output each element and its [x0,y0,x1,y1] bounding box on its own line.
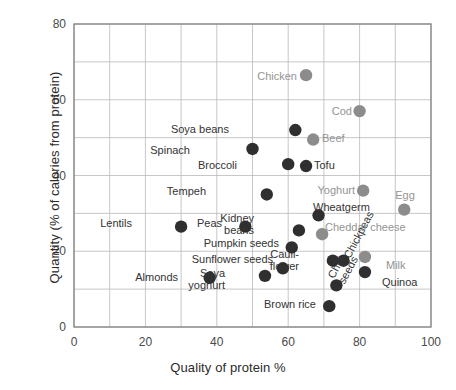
data-point [359,251,371,263]
data-point-label: Beef [322,133,345,145]
x-tick-label: 80 [340,335,380,349]
data-point-label: Cod [192,106,352,118]
data-point [353,105,365,117]
data-point-label: Tempeh [46,186,206,198]
data-point [293,224,305,236]
data-point-label: Brown rice [156,299,316,311]
x-axis-title: Quality of protein % [0,360,456,375]
x-tick-label: 40 [197,335,237,349]
data-point [282,158,294,170]
y-axis-title: Quantity (% of calories from protein) [47,18,62,338]
data-point-label: Soyayoghurt [65,268,225,291]
data-point-label: Milk [386,260,406,272]
data-point-label: Egg [365,190,445,202]
data-point-label: Wheatgerm [313,202,370,214]
x-tick-label: 20 [125,335,165,349]
data-point [359,266,371,278]
data-point-label: Tofu [314,160,335,172]
scatter-chart: 020406080100020406080 Soya beansSpinachB… [0,0,456,390]
data-point-label: Chicken [137,71,297,83]
data-point [300,69,312,81]
data-point [300,160,312,172]
data-point-label: Soya beans [69,124,229,136]
x-tick-label: 60 [268,335,308,349]
data-point-label: Broccoli [77,160,237,172]
data-point [323,300,335,312]
data-point-label: Cheddar cheese [325,222,406,234]
data-point-label: Pumpkin seeds [119,238,279,250]
x-tick-label: 100 [411,335,451,349]
data-point-label: Quinoa [382,277,417,289]
data-point [246,143,258,155]
data-point [398,203,410,215]
data-point [307,133,319,145]
data-point-label: Yoghurt [195,185,355,197]
data-point-label: Kidneybeans [94,213,254,236]
data-point [289,124,301,136]
